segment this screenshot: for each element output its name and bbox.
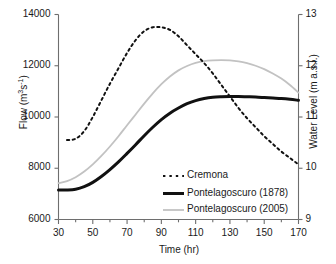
y-tick-label-left: 8000 [11,161,51,172]
legend-item-label: Pontelagoscuro (1878) [187,187,288,198]
y-tick-label-right: 9 [306,213,336,224]
y-tick-label-left: 12000 [11,59,51,70]
y-tick-label-right: 11 [306,110,336,121]
y-tick-label-left: 10000 [11,110,51,121]
legend-item-label: Cremona [187,169,228,180]
y-tick-label-right: 10 [306,161,336,172]
series-line [59,60,299,183]
legend-item-label: Pontelagoscuro (2005) [187,203,288,214]
series-line [67,27,298,165]
y-tick-label-left: 6000 [11,213,51,224]
y-axis-left-title-text: Flow (m3s-1) [18,75,29,129]
x-tick-label: 170 [279,227,319,238]
x-axis-title: Time (hr) [58,244,300,255]
series-line [59,96,299,190]
plot-area [0,0,336,264]
y-tick-label-left: 14000 [11,8,51,19]
series-lines [59,27,299,190]
y-tick-label-right: 12 [306,59,336,70]
legend-swatches [163,176,184,210]
chart-container: Flow (m3s-1) Water Level (m a.s.l.) Time… [0,0,336,264]
y-tick-label-right: 13 [306,8,336,19]
